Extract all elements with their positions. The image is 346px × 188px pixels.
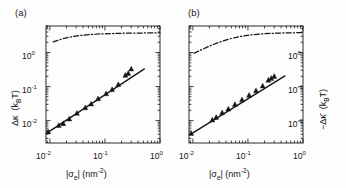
panel-a-xtick-10e0: 100 xyxy=(150,150,163,160)
panel-a-y-axis-title: Δκ (kBT) xyxy=(11,90,22,126)
panel-a-x-axis-title: |σe| (nm-2) xyxy=(66,168,107,181)
panel-b-x-axis-title: |σe| (nm-2) xyxy=(209,168,250,181)
panel-b-xtick-10e-2: 10-2 xyxy=(179,150,194,160)
panel-a-xtick-10e-1: 10-1 xyxy=(93,150,108,160)
figure-canvas: (a) 100 10-1 10-2 10-2 10-1 100 Δκ (kBT)… xyxy=(0,0,346,188)
panel-b: (b) 100 10-1 10-2 10-2 10-1 100 −Δκ̄ (kB… xyxy=(173,0,346,188)
panel-b-ytick-10e-2: 10-2 xyxy=(288,118,303,128)
panel-b-ytick-10e-1: 10-1 xyxy=(288,84,303,94)
panel-b-y-axis-title: −Δκ̄ (kBT) xyxy=(319,89,330,130)
panel-a-xtick-10e-2: 10-2 xyxy=(36,150,51,160)
panel-a-ytick-10e-2: 10-2 xyxy=(22,118,37,128)
panel-a: (a) 100 10-1 10-2 10-2 10-1 100 Δκ (kBT)… xyxy=(0,0,173,188)
panel-b-xtick-10e0: 100 xyxy=(293,150,306,160)
panel-a-ytick-10e-1: 10-1 xyxy=(22,84,37,94)
panel-b-xtick-10e-1: 10-1 xyxy=(236,150,251,160)
panel-a-ytick-10e0: 100 xyxy=(22,50,35,60)
panel-b-ytick-10e0: 100 xyxy=(288,50,301,60)
